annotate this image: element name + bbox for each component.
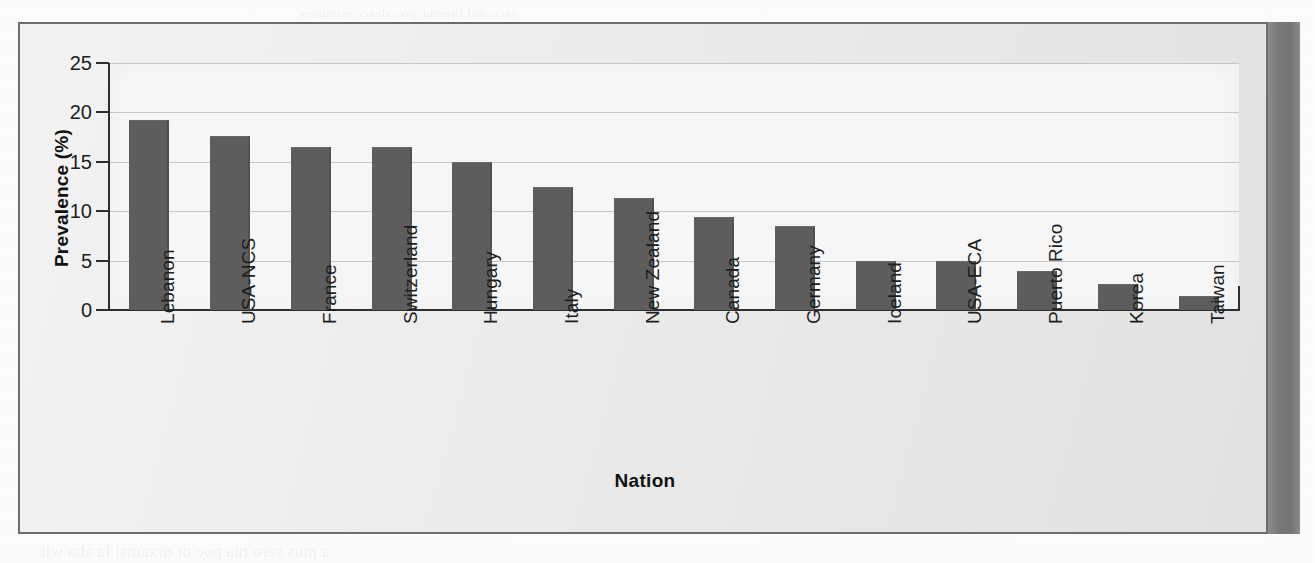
y-axis-tick — [96, 260, 109, 262]
book-gutter-shadow — [1268, 22, 1300, 534]
bar-chart: 0510152025 Prevalence (%) LebanonUSA-NCS… — [20, 24, 1266, 532]
y-axis-tick — [96, 62, 109, 64]
x-axis-category-label: Switzerland — [400, 225, 422, 324]
y-axis-title: Prevalence (%) — [51, 78, 73, 318]
x-axis-category-label: Iceland — [884, 262, 906, 324]
y-axis-line — [108, 63, 110, 311]
figure-panel: 0510152025 Prevalence (%) LebanonUSA-NCS… — [18, 22, 1268, 534]
x-axis-category-label: Puerto Rico — [1045, 224, 1067, 324]
x-axis-category-label: Germany — [803, 245, 825, 324]
gridline — [109, 162, 1239, 163]
gridline — [109, 261, 1239, 262]
x-axis-category-label: USA-NCS — [238, 238, 260, 324]
x-axis-category-label: Korea — [1126, 273, 1148, 324]
y-axis-tick-label: 25 — [22, 52, 92, 75]
y-axis-tick — [96, 111, 109, 113]
x-axis-category-label: Hungary — [480, 251, 502, 324]
gridline — [109, 211, 1239, 212]
x-axis-category-label: USA-ECA — [964, 239, 986, 324]
gridline — [109, 63, 1239, 64]
scanned-page: a mus sero tua poe ot orxamsi la aba wit… — [0, 0, 1315, 563]
y-axis-tick — [96, 210, 109, 212]
plot-area — [109, 63, 1239, 310]
gridline — [109, 112, 1239, 113]
bleed-through-text-bottom: a mus sero tua poe ot orxamsi la aba wit — [40, 542, 329, 562]
y-axis-tick — [96, 309, 109, 311]
x-axis-category-label: Italy — [561, 289, 583, 324]
x-axis-right-cap — [1238, 286, 1240, 311]
x-axis-category-label: Lebanon — [157, 249, 179, 324]
x-axis-category-label: Taiwan — [1207, 264, 1229, 324]
x-axis-category-label: Canada — [722, 257, 744, 324]
x-axis-title: Nation — [20, 470, 1270, 492]
x-axis-category-label: France — [319, 264, 341, 324]
x-axis-category-label: New Zealand — [642, 211, 664, 324]
x-axis-line — [108, 309, 1240, 311]
y-axis-tick — [96, 161, 109, 163]
bleed-through-text-top: recorded lifetime prevalence estimates — [300, 6, 516, 22]
